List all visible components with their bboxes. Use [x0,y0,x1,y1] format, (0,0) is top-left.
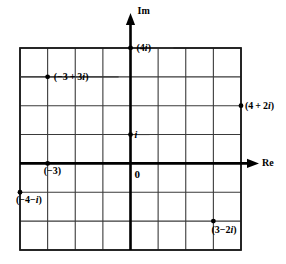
imaginary-axis-arrowhead [126,13,135,25]
point-connector-lines [20,48,173,135]
real-axis-arrowhead [247,159,259,168]
point-label-4-plus-2i: (4 + 2i) [245,101,274,111]
plot-point-p-neg3plus3i [45,74,50,79]
point-label-i: i [135,130,138,140]
plot-point-p-i [128,132,133,137]
point-label-neg3-plus-3i: (−3 + 3i) [54,72,89,82]
plot-point-p-4plus2i [239,103,244,108]
point-label-neg3: (−3) [44,166,61,176]
complex-plane-figure [0,0,286,264]
real-axis-label: Re [262,158,274,168]
origin-label: 0 [135,169,141,180]
point-label-4i: (4i) [137,43,151,53]
plot-point-p-4i [128,46,133,51]
point-label-3-minus-2i: (3−2i) [211,225,236,235]
imaginary-axis-label: Im [138,6,150,16]
point-label-neg4-minus-i: (−4−i) [16,195,42,205]
plot-point-p-3minus2i [211,219,216,224]
